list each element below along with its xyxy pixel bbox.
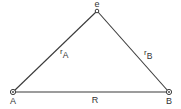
node-label-B: B xyxy=(166,96,172,106)
nucleus-a-dot xyxy=(12,91,14,93)
nucleus-b-dot xyxy=(168,91,170,93)
edge-label-rB-sub: B xyxy=(147,51,153,61)
electron-node-icon xyxy=(95,9,99,13)
node-label-A: A xyxy=(10,96,16,106)
edge-rA xyxy=(14,12,96,91)
triangle-diagram: e A B rA rB R xyxy=(0,0,181,109)
node-label-e: e xyxy=(94,0,99,9)
edge-label-rA: rA xyxy=(60,47,69,60)
edge-label-rA-sub: A xyxy=(63,50,69,60)
edge-label-R: R xyxy=(92,95,99,105)
edge-label-rB: rB xyxy=(144,48,153,61)
edge-rB xyxy=(98,12,168,91)
